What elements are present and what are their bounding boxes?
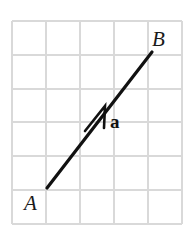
point-label-a: A [22, 191, 37, 215]
vector-diagram-canvas: A B a [0, 0, 189, 231]
vector-diagram-figure: A B a [0, 0, 189, 231]
vector-label-a: a [110, 111, 120, 132]
point-label-b: B [152, 27, 165, 51]
